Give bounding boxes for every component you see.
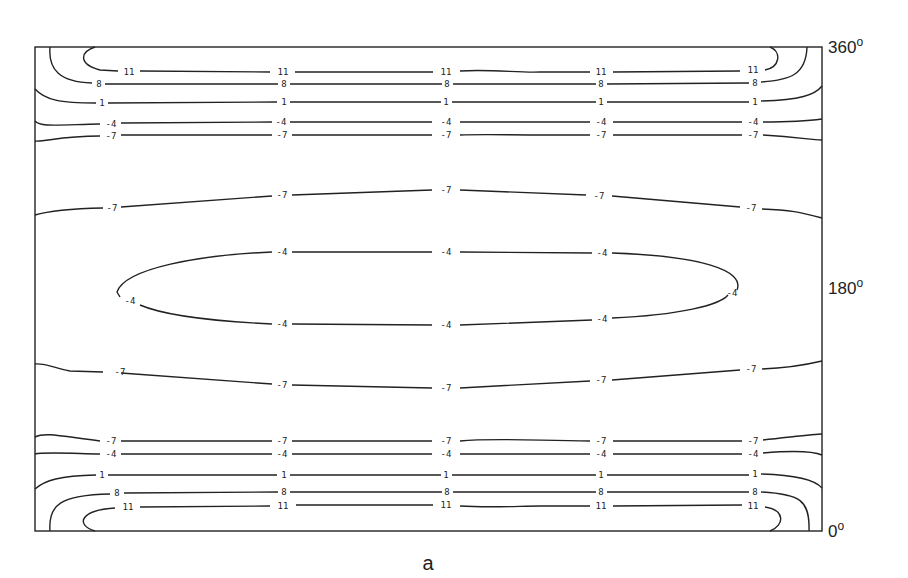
contour-bottom-neg7 — [35, 434, 822, 441]
label: 11 — [748, 65, 759, 75]
contour-mid-lower-neg7 — [35, 361, 822, 388]
label: -7 — [748, 130, 759, 140]
label: -4 — [727, 288, 738, 298]
label: -4 — [125, 296, 136, 306]
label: 11 — [123, 502, 134, 512]
contour-top-neg4 — [35, 119, 822, 125]
label: -4 — [441, 117, 452, 127]
label: -7 — [746, 364, 757, 374]
y-tick-0: 0o — [828, 519, 844, 541]
label: -7 — [596, 436, 607, 446]
label: 8 — [281, 79, 286, 89]
y-tick-180: 180o — [828, 276, 863, 298]
label: 1 — [99, 470, 104, 480]
label: 1 — [99, 98, 104, 108]
label: -7 — [441, 185, 452, 195]
label: 11 — [596, 67, 607, 77]
label: 11 — [278, 67, 289, 77]
label: 8 — [598, 79, 603, 89]
label: -4 — [441, 449, 452, 459]
contour-ellipse-neg4 — [117, 252, 738, 325]
label: -4 — [277, 449, 288, 459]
label: 11 — [124, 67, 135, 77]
label: -7 — [106, 436, 117, 446]
label: 1 — [598, 97, 603, 107]
contour-bottom-8 — [50, 492, 809, 531]
contour-top-11 — [84, 47, 778, 72]
label: -4 — [441, 247, 452, 257]
label: 8 — [752, 78, 757, 88]
label: 8 — [444, 79, 449, 89]
label: 8 — [598, 487, 603, 497]
label: -4 — [748, 449, 759, 459]
label: -4 — [596, 449, 607, 459]
contour-bottom-neg4 — [35, 452, 822, 455]
label: -7 — [277, 190, 288, 200]
y-tick-360: 360o — [828, 35, 863, 57]
label: 8 — [96, 79, 101, 89]
label: 1 — [281, 97, 286, 107]
label: -4 — [596, 117, 607, 127]
label: 1 — [443, 97, 448, 107]
label: 11 — [596, 501, 607, 511]
contour-bottom-1 — [35, 474, 822, 489]
label: 11 — [441, 500, 452, 510]
label: -7 — [596, 375, 607, 385]
label: 1 — [281, 470, 286, 480]
label: -7 — [277, 380, 288, 390]
label: 1 — [752, 469, 757, 479]
label: -7 — [277, 436, 288, 446]
label: -4 — [277, 319, 288, 329]
label: -4 — [597, 314, 608, 324]
label: -7 — [107, 203, 118, 213]
plot-frame — [35, 47, 822, 531]
label: 1 — [443, 470, 448, 480]
label: -7 — [441, 436, 452, 446]
label: 1 — [752, 97, 757, 107]
label: -4 — [106, 449, 117, 459]
label: -4 — [276, 117, 287, 127]
label: -7 — [596, 130, 607, 140]
label: -7 — [106, 131, 117, 141]
label: -7 — [748, 436, 759, 446]
label: -7 — [441, 130, 452, 140]
contour-top-neg7 — [35, 135, 822, 142]
label: 1 — [598, 470, 603, 480]
label: -7 — [441, 383, 452, 393]
label: -7 — [746, 203, 757, 213]
contour-plot: 11 11 11 11 11 8 8 8 8 8 1 1 1 1 1 -4 -4… — [0, 0, 908, 578]
label: 8 — [281, 487, 286, 497]
label: 11 — [441, 67, 452, 77]
label: -4 — [277, 247, 288, 257]
contour-top-8 — [50, 47, 807, 84]
label: -4 — [748, 117, 759, 127]
label: -7 — [277, 130, 288, 140]
label: 11 — [748, 501, 759, 511]
label: 8 — [114, 488, 119, 498]
contour-top-1 — [35, 86, 822, 103]
contour-bottom-11 — [83, 505, 780, 531]
label: -7 — [115, 367, 126, 377]
label: -4 — [106, 119, 117, 129]
label: -4 — [441, 320, 452, 330]
label: -4 — [597, 248, 608, 258]
label: 8 — [444, 487, 449, 497]
label: -7 — [594, 191, 605, 201]
contour-mid-upper-neg7 — [35, 190, 822, 218]
figure-caption: a — [422, 552, 434, 574]
label: 8 — [752, 487, 757, 497]
label: 11 — [278, 501, 289, 511]
